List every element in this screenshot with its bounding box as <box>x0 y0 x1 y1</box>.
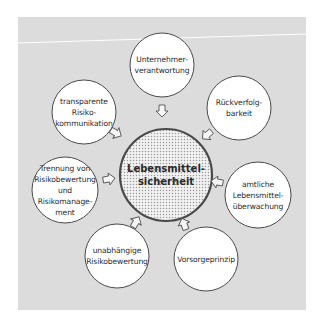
node-label-line: Lebensmittel- <box>233 190 284 201</box>
node-label-line: Risiko- <box>55 107 112 118</box>
node-label-amtliche-lebensmittelueberwachung: amtliche Lebensmittel- überwachung <box>233 179 284 212</box>
node-label-transparente-risikokommunikation: transparente Risiko- kommunikation <box>55 96 112 129</box>
node-label-rueckverfolgbarkeit: Rückverfolg- barkeit <box>216 97 262 119</box>
arrow-icon <box>156 105 168 117</box>
center-label: Lebensmittel- sicherheit <box>127 162 205 188</box>
node-label-line: amtliche <box>233 179 284 190</box>
node-label-line: unabhängige <box>86 245 148 256</box>
node-label-line: verantwortung <box>135 65 190 76</box>
node-label-trennung: Trennung von Risikobewertung und Risikom… <box>34 163 96 218</box>
arrow-icon <box>199 127 216 144</box>
node-label-unternehmerverantwortung: Unternehmer- verantwortung <box>135 54 190 76</box>
node-label-line: Risikomanage- <box>34 196 96 207</box>
node-label-line: transparente <box>55 96 112 107</box>
node-label-line: Risikobewertung <box>34 174 96 185</box>
center-label-line: sicherheit <box>127 175 205 188</box>
node-label-line: Unternehmer- <box>135 54 190 65</box>
node-label-line: Trennung von <box>34 163 96 174</box>
node-label-line: ment <box>34 207 96 218</box>
node-label-line: Risikobewertung <box>86 256 148 267</box>
node-label-line: barkeit <box>216 108 262 119</box>
node-label-line: kommunikation <box>55 118 112 129</box>
node-label-line: Rückverfolg- <box>216 97 262 108</box>
arrow-icon <box>102 172 116 186</box>
node-label-unabhaengige-risikobewertung: unabhängige Risikobewertung <box>86 245 148 267</box>
node-label-vorsorgeprinzip: Vorsorgeprinzip <box>177 254 235 265</box>
node-label-line: und <box>34 185 96 196</box>
center-label-line: Lebensmittel- <box>127 162 205 175</box>
node-label-line: überwachung <box>233 201 284 212</box>
node-label-line: Vorsorgeprinzip <box>177 254 235 265</box>
